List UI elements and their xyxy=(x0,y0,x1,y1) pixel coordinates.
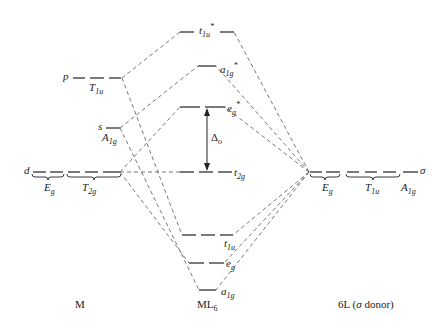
caption-metal: M xyxy=(75,299,85,310)
mo-t2g-label: t2g xyxy=(234,167,245,181)
brace-lig-t1u xyxy=(346,174,400,180)
delta-o-label: Δo xyxy=(211,132,222,146)
caption-ligand: 6L (σ donor) xyxy=(338,299,394,310)
metal-d-eg-sym: Eg xyxy=(44,182,55,196)
ligand-sigma-label: σ xyxy=(420,165,425,176)
metal-p-sym: T1u xyxy=(89,82,103,96)
ligand-eg-sym: Eg xyxy=(322,182,333,196)
brace-t2g xyxy=(67,174,121,180)
mo-a1g-label: a1g xyxy=(221,286,235,300)
ligand-t1u-sym: T1u xyxy=(365,182,379,196)
metal-d-label: d xyxy=(24,165,30,176)
ligand-a1g-sym: A1g xyxy=(401,182,416,196)
mo-t1u-label: t1u xyxy=(224,238,235,252)
brace-eg xyxy=(32,174,64,180)
metal-p-label: p xyxy=(63,71,69,82)
correlation-lines xyxy=(120,32,309,290)
brace-lig-eg xyxy=(310,174,340,180)
mo-diagram-lines xyxy=(0,0,447,329)
metal-d-t2g-sym: T2g xyxy=(82,182,96,196)
caption-complex: ML6 xyxy=(197,299,218,313)
mo-eg-label: eg xyxy=(226,258,235,272)
mo-t1u-star-label: t1u* xyxy=(199,23,214,39)
metal-s-sym: A1g xyxy=(102,132,117,146)
mo-a1g-star-label: a1g* xyxy=(220,62,238,78)
mo-eg-star-label: eg* xyxy=(227,101,240,117)
